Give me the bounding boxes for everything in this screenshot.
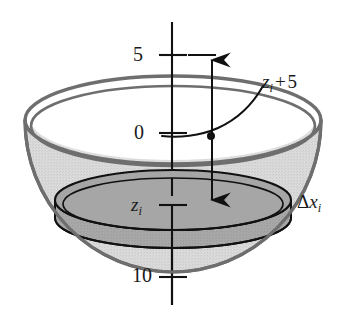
axis-label-5: 5 (133, 44, 143, 64)
delta-symbol: Δ (297, 191, 309, 212)
dxi-base: x (309, 191, 317, 212)
axis-label-10: 10 (132, 265, 152, 285)
zi-subscript: i (138, 204, 141, 218)
zi5-operator: + (273, 71, 288, 92)
axis-label-zi: zi (131, 195, 142, 217)
bowl-diagram-canvas (0, 0, 351, 321)
figure-root: 5 0 10 zi zi+5 Δxi (0, 0, 351, 321)
axis-label-0: 0 (134, 122, 144, 142)
zi5-tail: 5 (288, 71, 298, 92)
annotation-delta-x-i: Δxi (297, 192, 321, 214)
annotation-zi-plus-5: zi+5 (262, 72, 297, 94)
anchor-dot (207, 132, 215, 140)
dxi-subscript: i (318, 201, 321, 215)
